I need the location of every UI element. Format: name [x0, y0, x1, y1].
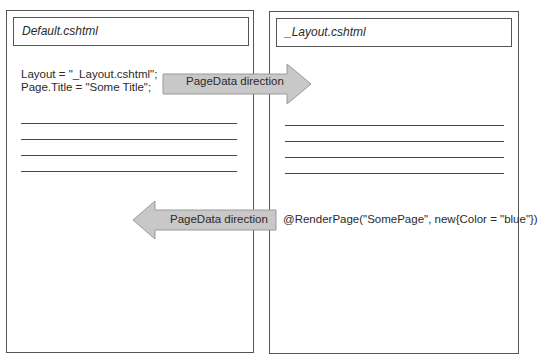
right-content-rule-2: [285, 141, 504, 142]
right-content-rule-3: [285, 157, 504, 158]
default-code-title-line: Page.Title = "Some Title";: [21, 81, 151, 94]
left-content-rule-4: [21, 171, 237, 172]
right-content-rule-1: [285, 125, 504, 126]
layout-cshtml-title: _Layout.cshtml: [276, 18, 512, 47]
left-content-rule-1: [21, 123, 237, 124]
left-content-rule-3: [21, 155, 237, 156]
default-code-layout-line: Layout = "_Layout.cshtml";: [21, 68, 157, 81]
arrow-left-label: PageData direction: [170, 213, 268, 225]
left-content-rule-2: [21, 139, 237, 140]
render-page-code-line: @RenderPage("SomePage", new{Color = "blu…: [283, 213, 538, 226]
arrow-right-label: PageData direction: [186, 75, 284, 87]
default-cshtml-title: Default.cshtml: [13, 17, 249, 46]
right-content-rule-4: [285, 173, 504, 174]
